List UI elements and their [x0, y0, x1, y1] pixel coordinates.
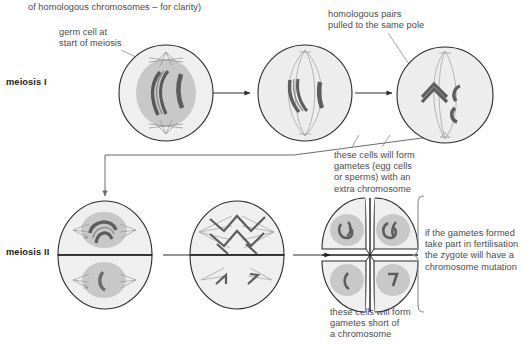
diagram-graphics — [0, 0, 530, 344]
connector-meiosis-i-to-ii — [105, 134, 452, 196]
cell-6-four-gametes — [322, 198, 418, 312]
meiosis-diagram: of homologous chromosomes – for clarity)… — [0, 0, 530, 344]
outcome-bracket — [412, 196, 424, 312]
cell-1-germ-cell — [119, 45, 213, 141]
cell-5-metaphase-ii — [190, 201, 284, 309]
leader-extra-left — [352, 135, 359, 147]
leader-extra-right — [382, 135, 390, 147]
cell-4-daughter-pair — [58, 201, 152, 309]
cell-3-non-disjunction — [397, 47, 493, 143]
cell-2-metaphase-i — [258, 45, 352, 141]
